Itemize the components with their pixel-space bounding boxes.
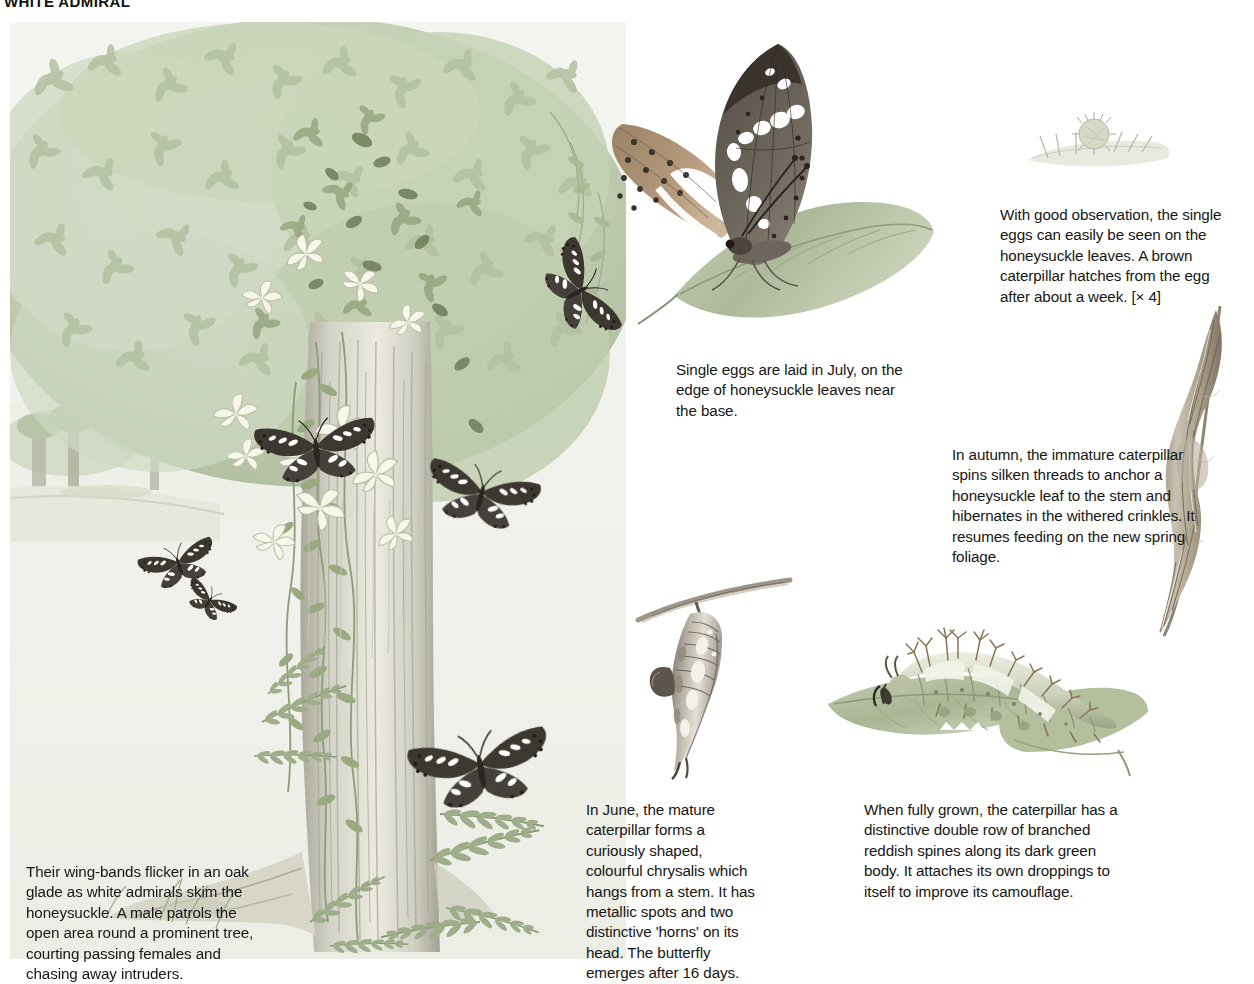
caption-chrysalis: In June, the mature caterpillar forms a … (586, 800, 758, 984)
illustration-egg-on-honeysuckle-leaf (1022, 102, 1174, 186)
main-illustration-oak-glade (10, 22, 626, 959)
illustration-chrysalis-on-stem (630, 576, 810, 780)
adult-butterfly-svg (612, 28, 942, 348)
caterpillar-svg (818, 600, 1154, 780)
stem (638, 580, 790, 622)
caption-autumn: In autumn, the immature caterpillar spin… (952, 445, 1208, 567)
caption-eggs: Single eggs are laid in July, on the edg… (676, 360, 906, 421)
egg-detail-svg (1022, 102, 1174, 186)
illustration-adult-white-admiral-on-leaf (612, 28, 942, 348)
illustration-caterpillar-on-leaf (818, 600, 1154, 780)
caption-larva: When fully grown, the caterpillar has a … (864, 800, 1124, 902)
caption-egg-detail: With good observation, the single eggs c… (1000, 205, 1232, 307)
chrysalis-svg (630, 576, 810, 780)
oak-glade-svg (10, 22, 626, 959)
page-title: WHITE ADMIRAL (4, 0, 130, 10)
caption-habitat: Their wing-bands flicker in an oak glade… (26, 862, 266, 984)
